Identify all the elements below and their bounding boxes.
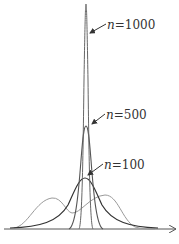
n500-arrow [92, 114, 105, 124]
n1000-arrow [90, 24, 106, 33]
n100-label: n=100 [104, 158, 145, 172]
n500-label: n=500 [106, 108, 147, 122]
n1000-label: n=1000 [107, 18, 155, 32]
n500-curve [69, 126, 103, 229]
n1000-curve [79, 4, 93, 229]
n100-curve [10, 178, 158, 228]
n100-arrow [88, 164, 103, 175]
distribution-chart: n=1000 n=500 n=100 [0, 0, 179, 244]
population-curve [14, 195, 155, 229]
